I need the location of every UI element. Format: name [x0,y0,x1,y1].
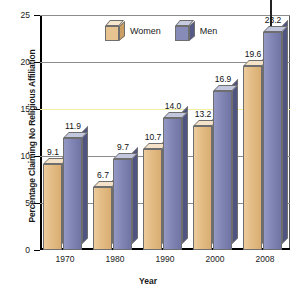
y-tick-label-10: 10 [6,151,30,161]
y-tick-label-0: 0 [6,245,30,255]
chart-legend: Women Men [105,20,217,41]
data-label-women-1980: 6.7 [88,170,119,180]
y-tick-0 [34,250,40,251]
bar-men-2008 [263,32,282,250]
legend-item-men: Men [175,20,218,41]
legend-cube-women-icon [105,20,125,41]
y-tick-15 [34,109,40,110]
bar-chart: Percentage Claiming No Religious Affilia… [0,0,296,296]
data-label-men-1970: 11.9 [58,121,89,131]
x-tick-label-1980: 1980 [90,254,140,264]
data-label-women-2008: 19.6 [238,49,269,59]
bar-women-2008 [243,66,262,250]
y-tick-label-25: 25 [6,10,30,20]
bar-women-1990 [143,149,162,250]
y-tick-label-20: 20 [6,57,30,67]
y-tick-20 [34,62,40,63]
x-tick-label-1970: 1970 [40,254,90,264]
data-label-men-2008: 23.2 [258,15,289,25]
legend-cube-men-icon [175,20,195,41]
data-label-women-1990: 10.7 [138,132,169,142]
legend-label-women: Women [130,26,161,36]
y-tick-label-5: 5 [6,198,30,208]
bar-women-1980 [93,187,112,250]
y-tick-label-15: 15 [6,104,30,114]
data-label-men-1980: 9.7 [108,142,139,152]
plot-border-right [289,15,290,250]
x-tick-label-2008: 2008 [240,254,290,264]
data-label-men-1990: 14.0 [158,101,189,111]
data-label-women-1970: 9.1 [38,147,69,157]
gridline-25 [40,15,290,16]
x-tick-label-2000: 2000 [190,254,240,264]
x-axis-title: Year [0,276,296,286]
x-tick-label-1990: 1990 [140,254,190,264]
bar-women-2000 [193,126,212,250]
bar-women-1970 [43,164,62,250]
data-label-women-2000: 13.2 [188,109,219,119]
legend-label-men: Men [200,26,218,36]
y-tick-25 [34,15,40,16]
data-label-men-2000: 16.9 [208,74,239,84]
legend-item-women: Women [105,20,161,41]
y-tick-5 [34,203,40,204]
